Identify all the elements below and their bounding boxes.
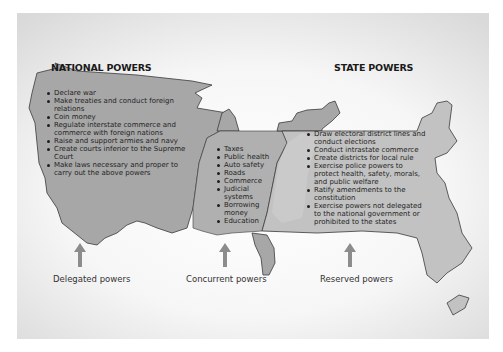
national-powers-heading: NATIONAL POWERS bbox=[51, 62, 151, 73]
list-item: Auto safety bbox=[217, 161, 279, 169]
list-item: Taxes bbox=[217, 145, 279, 153]
list-item: Regulate interstate commerce and commerc… bbox=[47, 121, 197, 137]
list-item: Create districts for local rule bbox=[307, 154, 427, 162]
list-item: Coin money bbox=[47, 113, 197, 121]
list-item: Ratify amendments to the constitution bbox=[307, 186, 427, 202]
list-item: Judicial systems bbox=[217, 185, 279, 201]
list-item: Conduct intrastate commerce bbox=[307, 146, 427, 154]
concurrent-powers-caption: Concurrent powers bbox=[186, 274, 267, 284]
list-item: Borrowing money bbox=[217, 201, 279, 217]
national-powers-list: Declare war Make treaties and conduct fo… bbox=[47, 89, 197, 177]
reserved-powers-caption: Reserved powers bbox=[320, 274, 393, 284]
list-item: Exercise police powers to protect health… bbox=[307, 162, 427, 186]
list-item: Exercise powers not delegated to the nat… bbox=[307, 202, 427, 226]
state-powers-heading: STATE POWERS bbox=[334, 62, 413, 73]
list-item: Make treaties and conduct foreign relati… bbox=[47, 97, 197, 113]
up-arrow-icon bbox=[344, 243, 356, 267]
state-powers-list: Draw electoral district lines and conduc… bbox=[307, 130, 427, 226]
list-item: Make laws necessary and proper to carry … bbox=[47, 161, 197, 177]
florida-region bbox=[252, 233, 275, 275]
island-region bbox=[447, 295, 469, 315]
list-item: Create courts inferior to the Supreme Co… bbox=[47, 145, 197, 161]
list-item: Commerce bbox=[217, 177, 279, 185]
new-england-region bbox=[277, 101, 340, 131]
list-item: Education bbox=[217, 217, 279, 225]
list-item: Roads bbox=[217, 169, 279, 177]
up-arrow-icon bbox=[219, 243, 231, 267]
diagram-panel: NATIONAL POWERS STATE POWERS Declare war… bbox=[17, 13, 489, 339]
concurrent-powers-list: Taxes Public health Auto safety Roads Co… bbox=[217, 145, 279, 225]
list-item: Raise and support armies and navy bbox=[47, 137, 197, 145]
up-arrow-icon bbox=[74, 243, 86, 267]
list-item: Draw electoral district lines and conduc… bbox=[307, 130, 427, 146]
list-item: Declare war bbox=[47, 89, 197, 97]
delegated-powers-caption: Delegated powers bbox=[53, 274, 130, 284]
list-item: Public health bbox=[217, 153, 279, 161]
